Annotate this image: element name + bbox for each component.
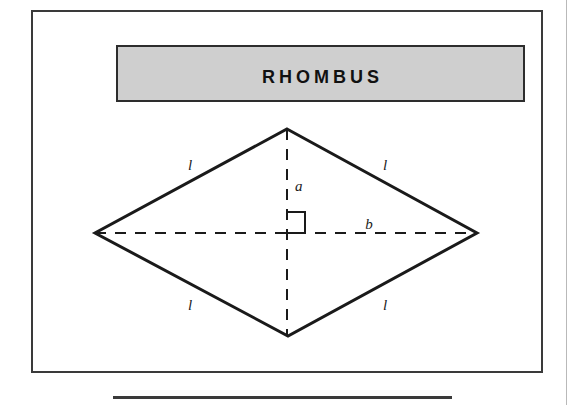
label-side-bottom-left: l [188,297,192,313]
page-root: Rhombus l l l l a b [0,0,572,405]
label-side-top-right: l [383,157,387,173]
label-side-top-left: l [188,157,192,173]
label-base-b: b [365,216,373,232]
rhombus-diagram: l l l l a b [0,0,572,405]
label-altitude-a: a [295,178,303,194]
right-angle-marker [287,212,305,233]
label-side-bottom-right: l [383,297,387,313]
bottom-caption-rule [113,396,452,399]
